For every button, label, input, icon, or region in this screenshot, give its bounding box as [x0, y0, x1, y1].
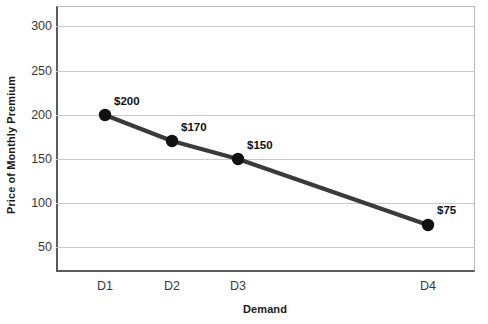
x-tick-d4: D4 [420, 279, 436, 293]
y-tick-100: 100 [4, 196, 56, 210]
gridline-300 [56, 26, 475, 27]
data-label-d2: $170 [181, 121, 207, 133]
gridline-200 [56, 115, 475, 116]
x-tick-d2: D2 [164, 279, 180, 293]
x-tick-d1: D1 [97, 279, 113, 293]
y-tick-300: 300 [4, 19, 56, 33]
x-axis-title: Demand [0, 303, 488, 315]
y-tick-200: 200 [4, 108, 56, 122]
x-tick-d3: D3 [230, 279, 246, 293]
y-axis-tick-labels: 300 250 200 150 100 50 [0, 0, 56, 324]
data-label-d3: $150 [247, 139, 273, 151]
data-label-d1: $200 [114, 95, 140, 107]
gridline-50 [56, 247, 475, 248]
x-axis-title-text: Demand [243, 303, 287, 315]
y-tick-150: 150 [4, 152, 56, 166]
data-label-d4: $75 [437, 204, 456, 216]
gridline-100 [56, 203, 475, 204]
y-tick-50: 50 [4, 240, 56, 254]
gridline-250 [56, 71, 475, 72]
y-tick-250: 250 [4, 64, 56, 78]
demand-price-line-chart: Price of Monthly Premium 300 250 200 150… [0, 0, 488, 324]
gridline-150 [56, 159, 475, 160]
